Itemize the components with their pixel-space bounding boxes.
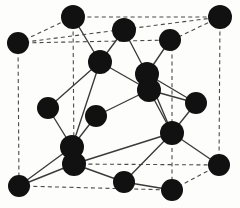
atom-corner-front-bottom-left bbox=[8, 175, 30, 197]
atoms bbox=[7, 5, 232, 201]
unit-cell-edge bbox=[74, 164, 219, 165]
atom-face-top-right bbox=[159, 29, 181, 51]
atom-face-left-middle bbox=[37, 97, 59, 119]
atom-corner-bottom-right-back bbox=[208, 154, 230, 176]
atom-interior-upper-right-b bbox=[137, 78, 161, 102]
atom-interior-lower-left-b bbox=[62, 152, 86, 176]
atom-corner-back-top-left bbox=[7, 32, 29, 54]
atom-interior-center-left bbox=[85, 105, 107, 127]
unit-cell-edge bbox=[18, 43, 19, 186]
atom-face-top-center bbox=[112, 18, 136, 42]
atom-corner-top-back-right bbox=[208, 5, 232, 29]
atom-corner-top-back-left bbox=[61, 5, 85, 29]
atom-interior-lower-right bbox=[160, 121, 184, 145]
atom-corner-bottom-front-mid bbox=[161, 179, 183, 201]
lattice-diagram bbox=[0, 0, 240, 208]
unit-cell-edge bbox=[219, 17, 220, 165]
atom-face-bottom-center bbox=[113, 171, 135, 193]
atom-interior-upper-left bbox=[88, 50, 112, 74]
atom-face-right-middle bbox=[185, 92, 207, 114]
lattice-figure bbox=[0, 0, 240, 208]
